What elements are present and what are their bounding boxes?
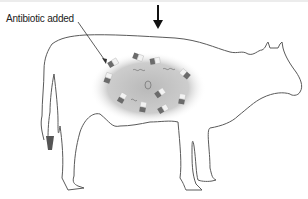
cow-illustration [0,0,308,199]
down-arrow-icon [153,5,163,29]
annotation-pointer-icon [78,22,107,64]
annotation-label: Antibiotic added [6,13,74,24]
tail-tuft-icon [46,136,54,150]
